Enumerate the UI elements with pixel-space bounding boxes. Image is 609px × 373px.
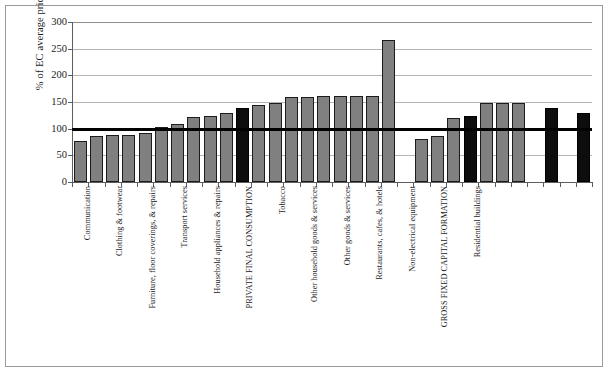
bar — [334, 96, 347, 182]
y-tick-label-0: 0 — [62, 177, 67, 188]
bar — [415, 139, 428, 182]
x-axis-label: PRIVATE FINAL CONSUMPTION — [246, 186, 254, 309]
chart-figure: % of EC average prices 05010015020025030… — [0, 0, 609, 373]
reference-line — [72, 128, 592, 131]
plot-area: 050100150200250300 — [72, 22, 592, 182]
x-axis-label: Tobacco — [279, 186, 287, 214]
bar — [269, 103, 282, 182]
x-axis-label: GROSS FIXED CAPITAL FORMATION — [441, 186, 449, 327]
bar — [155, 127, 168, 182]
y-tick-label-150: 150 — [51, 97, 67, 108]
y-tick-label-250: 250 — [51, 43, 67, 54]
bar — [496, 103, 509, 182]
bar — [545, 108, 558, 182]
x-axis-label: Furniture, floor coverings, & repairs — [149, 186, 157, 309]
x-axis-label: Restaurants, cafes, & hotels — [376, 186, 384, 280]
bar — [480, 103, 493, 182]
x-axis-label: Residential buildings — [474, 186, 482, 257]
bar — [317, 96, 330, 182]
x-tick-mark — [592, 182, 593, 187]
bar-series — [72, 22, 592, 182]
x-axis-label: Transport services — [181, 186, 189, 248]
x-axis-label: Communication — [84, 186, 92, 240]
x-axis-label: Other goods & services — [344, 186, 352, 265]
bar — [220, 113, 233, 182]
bar — [366, 96, 379, 182]
bar — [382, 40, 395, 182]
bar — [350, 96, 363, 182]
y-axis-title: % of EC average prices — [34, 0, 45, 115]
y-tick-label-200: 200 — [51, 70, 67, 81]
bar — [204, 116, 217, 182]
y-tick-label-100: 100 — [51, 123, 67, 134]
bar — [285, 97, 298, 182]
bar — [171, 124, 184, 182]
bar — [139, 133, 152, 182]
x-axis-label: Household appliances & repairs — [214, 186, 222, 294]
bar — [74, 141, 87, 182]
bar — [512, 103, 525, 182]
bar — [464, 116, 477, 182]
x-axis-label: Other household goods & services — [311, 186, 319, 302]
bar — [431, 136, 444, 182]
bar — [90, 136, 103, 182]
bar — [301, 97, 314, 182]
x-axis-label: Clothing & footwear — [116, 186, 124, 256]
y-tick-label-50: 50 — [57, 150, 68, 161]
x-axis-label: Non-electrical equipment — [409, 186, 417, 272]
bar — [252, 105, 265, 182]
bar — [106, 135, 119, 182]
y-tick-label-300: 300 — [51, 17, 67, 28]
bar — [122, 135, 135, 182]
bar — [236, 108, 249, 182]
x-axis-labels: CommunicationClothing & footwearFurnitur… — [72, 186, 592, 326]
bar — [577, 113, 590, 182]
